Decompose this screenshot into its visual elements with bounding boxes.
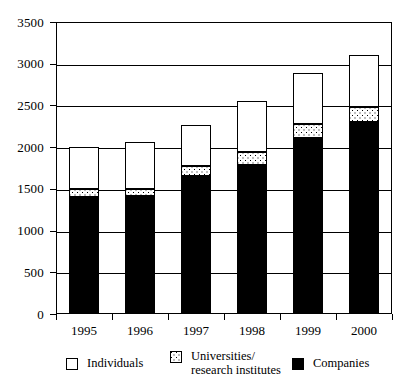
bar-segment-universities [237, 152, 267, 165]
x-tick-label-2000: 2000 [334, 323, 394, 338]
bar-segment-companies [181, 176, 211, 314]
bar-segment-companies [237, 165, 267, 314]
bar-segment-individuals [349, 55, 379, 107]
legend-label: Individuals [87, 356, 143, 370]
x-tick-mark [168, 314, 169, 320]
bars-layer [56, 22, 392, 314]
y-tick-label: 2000 [0, 141, 44, 154]
legend-swatch-individuals-icon [66, 358, 78, 370]
bar-2000 [349, 55, 379, 314]
bar-segment-universities [349, 107, 379, 122]
y-axis: 0500100015002000250030003500 [0, 22, 56, 314]
bar-segment-universities [125, 189, 155, 196]
bar-1997 [181, 125, 211, 314]
x-tick-mark [224, 314, 225, 320]
bar-1996 [125, 142, 155, 314]
bar-segment-companies [293, 138, 323, 314]
bar-segment-individuals [293, 73, 323, 124]
bar-segment-individuals [69, 147, 99, 189]
bar-1995 [69, 147, 99, 314]
x-tick-mark [280, 314, 281, 320]
y-tick-label: 1000 [0, 224, 44, 237]
x-tick-mark [336, 314, 337, 320]
x-tick-label-1998: 1998 [222, 323, 282, 338]
y-tick-label: 3000 [0, 57, 44, 70]
bar-segment-individuals [237, 101, 267, 152]
y-tick-label: 500 [0, 266, 44, 279]
x-tick-label-1996: 1996 [110, 323, 170, 338]
bar-segment-individuals [125, 142, 155, 189]
y-tick-label: 0 [0, 308, 44, 321]
stacked-bar-chart: 0500100015002000250030003500 19951996199… [0, 0, 416, 387]
bar-1998 [237, 101, 267, 314]
y-tick-label: 3500 [0, 16, 44, 29]
x-tick-mark [112, 314, 113, 320]
y-tick-label: 1500 [0, 182, 44, 195]
legend-item-individuals[interactable]: Individuals [66, 356, 143, 370]
legend-label: Companies [313, 356, 369, 370]
legend-swatch-universities-icon [170, 351, 182, 363]
x-tick-label-1997: 1997 [166, 323, 226, 338]
y-tick-label: 2500 [0, 99, 44, 112]
x-tick-mark [56, 314, 57, 320]
bar-segment-companies [69, 197, 99, 314]
legend-item-companies[interactable]: Companies [292, 356, 369, 370]
bar-segment-universities [181, 166, 211, 176]
bar-1999 [293, 73, 323, 314]
x-tick-label-1999: 1999 [278, 323, 338, 338]
x-tick-label-1995: 1995 [54, 323, 114, 338]
legend-item-universities[interactable]: Universities/ research institutes [170, 349, 281, 377]
bar-segment-universities [293, 124, 323, 138]
chart-legend: IndividualsUniversities/ research instit… [0, 349, 416, 387]
bar-segment-companies [349, 122, 379, 314]
bar-segment-companies [125, 196, 155, 314]
bar-segment-individuals [181, 125, 211, 167]
legend-swatch-companies-icon [292, 358, 304, 370]
legend-label: Universities/ research institutes [191, 349, 281, 377]
bar-segment-universities [69, 189, 99, 197]
x-tick-mark [392, 314, 393, 320]
